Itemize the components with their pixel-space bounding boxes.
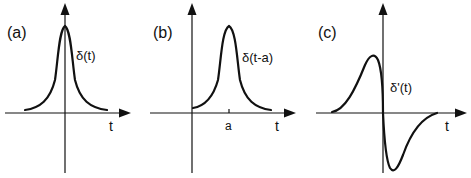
panel-label: (c): [318, 24, 337, 41]
panel-c: (c) δ'(t) t: [316, 3, 467, 173]
x-axis-arrow-icon: [119, 109, 131, 118]
panel-label: (b): [153, 24, 173, 41]
x-axis-label: t: [445, 118, 449, 134]
panel-a: (a) δ(t) t: [5, 3, 131, 173]
x-axis-label: t: [109, 118, 113, 134]
y-axis-arrow-icon: [188, 3, 197, 15]
function-label: δ(t): [76, 48, 96, 63]
function-label: δ(t-a): [242, 50, 273, 65]
panel-b: (b) δ(t-a) a t: [150, 3, 296, 173]
function-label: δ'(t): [390, 80, 412, 95]
x-axis-arrow-icon: [284, 109, 296, 118]
x-axis-label: t: [275, 118, 279, 134]
shifted-delta-curve: [193, 26, 271, 110]
y-axis-arrow-icon: [61, 3, 70, 15]
y-axis-arrow-icon: [379, 3, 388, 15]
x-axis-arrow-icon: [455, 109, 467, 118]
panel-label: (a): [7, 24, 27, 41]
delta-function-figure: (a) δ(t) t (b) δ(t-a) a t (c) δ'(t) t: [0, 0, 471, 178]
delta-curve: [25, 26, 107, 110]
tick-label-a: a: [225, 119, 232, 133]
